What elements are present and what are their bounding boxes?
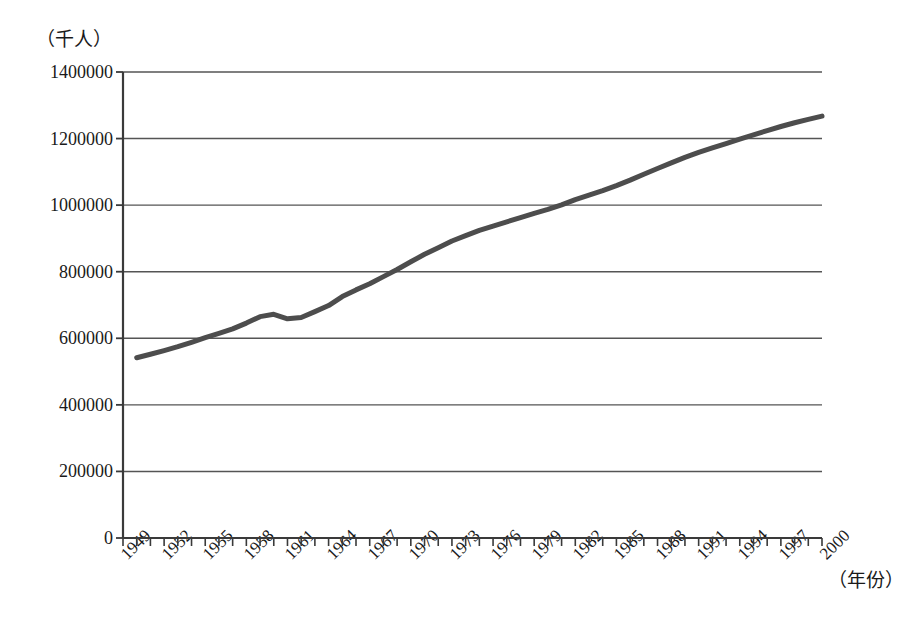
plot-area (0, 0, 913, 630)
population-line-chart: （千人） （年份） 140000012000001000000800000600… (0, 0, 913, 630)
data-series-line (137, 116, 822, 358)
